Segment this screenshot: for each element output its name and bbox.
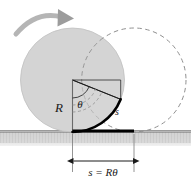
distance-label: s = Rθ: [88, 166, 118, 178]
radius-label: R: [54, 100, 63, 115]
ground-surface: [0, 131, 191, 147]
diagram-canvas: R θ s s = Rθ: [0, 0, 191, 183]
arc-length-label: s: [115, 106, 119, 117]
rolling-circle-figure: R θ s s = Rθ: [0, 0, 191, 183]
theta-label: θ: [77, 98, 83, 110]
